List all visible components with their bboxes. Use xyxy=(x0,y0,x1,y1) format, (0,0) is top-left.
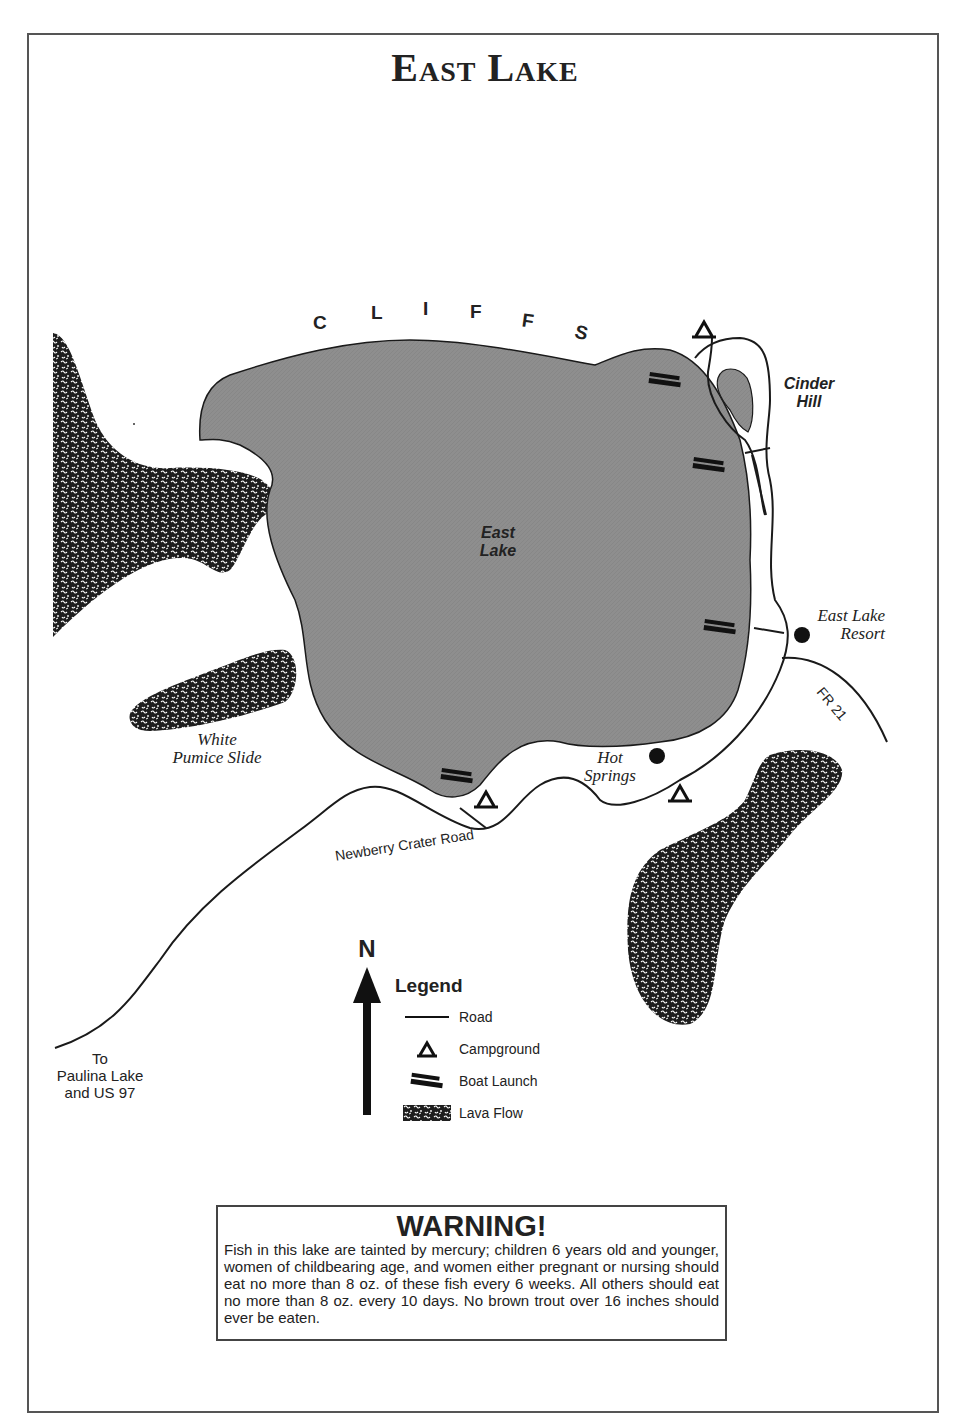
lake-label-line: East xyxy=(470,524,526,542)
cliffs-letter: L xyxy=(371,302,383,324)
cinder-hill-label-line: Hill xyxy=(775,393,843,411)
legend-item-label: Road xyxy=(459,1009,492,1025)
warning-title: WARNING! xyxy=(224,1211,719,1241)
destination-label: To Paulina Lake and US 97 xyxy=(45,1050,155,1101)
campground-icon xyxy=(395,1039,459,1059)
hot-springs-label: Hot Springs xyxy=(572,749,648,785)
cinder-hill-label: Cinder Hill xyxy=(775,375,843,411)
destination-label-line: and US 97 xyxy=(45,1084,155,1101)
campground-icon xyxy=(692,322,716,337)
boat-launch-icon xyxy=(395,1071,459,1091)
legend: Legend Road Campground Boat Launch Lava … xyxy=(395,975,595,1129)
hot-springs-point-icon xyxy=(649,748,665,764)
destination-label-line: Paulina Lake xyxy=(45,1067,155,1084)
hot-springs-label-line: Hot xyxy=(572,749,648,767)
lava-flow-pumice xyxy=(130,650,297,731)
pumice-slide-label: White Pumice Slide xyxy=(155,731,279,767)
warning-body: Fish in this lake are tainted by mercury… xyxy=(224,1241,719,1326)
legend-item-road: Road xyxy=(395,1001,595,1033)
campground-icon xyxy=(474,792,498,807)
east-lake-water xyxy=(200,340,751,797)
hot-springs-label-line: Springs xyxy=(572,767,648,785)
destination-label-line: To xyxy=(45,1050,155,1067)
cinder-hill-label-line: Cinder xyxy=(775,375,843,393)
cliffs-letter: F xyxy=(470,301,482,323)
road-spur-resort xyxy=(754,628,784,633)
lava-flow-icon xyxy=(395,1103,459,1123)
lake-label-line: Lake xyxy=(470,542,526,560)
cliffs-letter: I xyxy=(423,298,428,320)
resort-label-line: Resort xyxy=(795,625,885,643)
legend-title: Legend xyxy=(395,975,595,997)
mercury-warning-box: WARNING! Fish in this lake are tainted b… xyxy=(216,1205,727,1341)
lake-label: East Lake xyxy=(470,524,526,560)
road-spur-2 xyxy=(752,455,766,515)
legend-item-label: Campground xyxy=(459,1041,540,1057)
pumice-slide-label-line: Pumice Slide xyxy=(155,749,279,767)
campground-icon xyxy=(668,786,692,801)
cliffs-letter: C xyxy=(313,312,327,334)
legend-item-lava-flow: Lava Flow xyxy=(395,1097,595,1129)
north-arrow-icon xyxy=(353,967,381,1115)
stray-dot xyxy=(133,423,135,425)
legend-item-boat-launch: Boat Launch xyxy=(395,1065,595,1097)
road-line-icon xyxy=(395,1007,459,1027)
pumice-slide-label-line: White xyxy=(155,731,279,749)
north-label: N xyxy=(352,935,382,963)
legend-item-campground: Campground xyxy=(395,1033,595,1065)
resort-label: East Lake Resort xyxy=(795,607,885,643)
legend-item-label: Boat Launch xyxy=(459,1073,538,1089)
legend-item-label: Lava Flow xyxy=(459,1105,523,1121)
resort-label-line: East Lake xyxy=(795,607,885,625)
